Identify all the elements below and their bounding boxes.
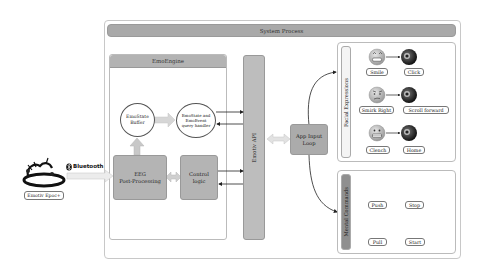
pull-label: Pull — [368, 238, 387, 246]
facial-expressions-panel — [337, 42, 456, 162]
smirk-right-label: Smirk Right — [359, 106, 394, 114]
apploop-to-mental-curve — [309, 155, 337, 212]
smile-label: Smile — [366, 68, 388, 76]
facial-expressions-tab: Facial Expressions — [341, 46, 351, 158]
eeg-to-buffer-arrow — [130, 138, 144, 155]
stop-label: Stop — [405, 201, 424, 209]
bluetooth-arrow — [67, 170, 113, 182]
buffer-to-handler-arrow — [155, 113, 175, 127]
api-apploop-double-arrow — [267, 134, 290, 144]
query-handler-node: EmoState and EmoEvent query handler — [176, 103, 216, 138]
eeg-control-double-arrow — [166, 172, 181, 182]
push-label: Push — [368, 201, 387, 209]
bluetooth-label: Bluetooth — [73, 163, 103, 169]
mental-commands-title: Mental Commands — [343, 187, 349, 237]
click-label: Click — [404, 68, 424, 76]
app-input-loop-box: App Input Loop — [290, 124, 328, 155]
home-label: Home — [403, 146, 425, 154]
start-label: Start — [405, 238, 425, 246]
control-logic-box: Control logic — [180, 155, 218, 200]
emotiv-epoc-label: Emotiv Epoc+ — [24, 191, 64, 200]
bluetooth-icon — [66, 163, 72, 170]
clench-label: Clench — [366, 146, 390, 154]
mental-commands-tab: Mental Commands — [341, 174, 351, 250]
mental-commands-panel — [337, 170, 456, 254]
apploop-to-facial-curve — [308, 72, 336, 125]
eeg-post-processing-box: EEG Post-Processing — [113, 155, 167, 200]
facial-expressions-title: Facial Expressions — [343, 78, 349, 127]
emotiv-headset-icon — [24, 158, 64, 186]
emostate-buffer-node: EmoState Buffer — [120, 103, 155, 137]
scroll-forward-label: Scroll forward — [403, 106, 449, 114]
